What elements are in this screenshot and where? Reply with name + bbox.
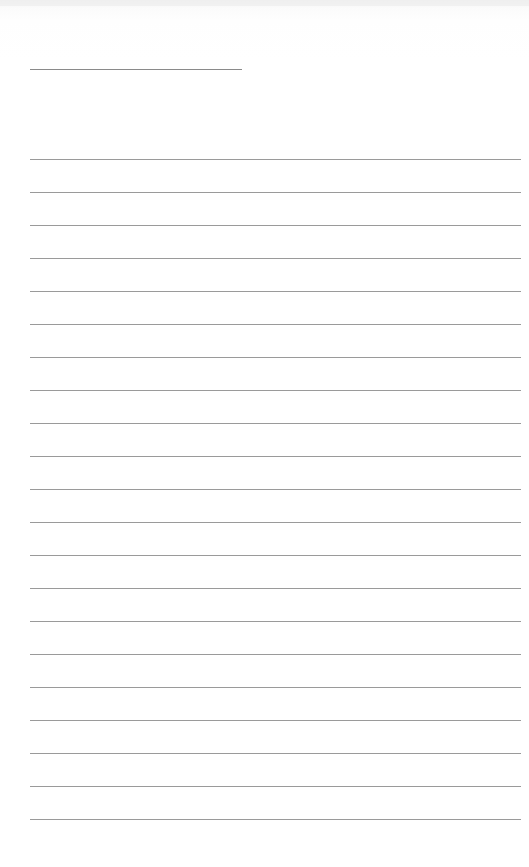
ruled-line [30,654,521,655]
ruled-line [30,159,521,160]
ruled-line [30,720,521,721]
ruled-line [30,324,521,325]
ruled-line [30,192,521,193]
ruled-line [30,291,521,292]
ruled-line [30,786,521,787]
lined-paper-page [0,0,529,867]
ruled-line [30,390,521,391]
ruled-line [30,687,521,688]
ruled-line [30,225,521,226]
ruled-line [30,819,521,820]
top-edge-shadow [0,0,529,6]
ruled-line [30,489,521,490]
ruled-line [30,753,521,754]
ruled-line [30,555,521,556]
ruled-line [30,357,521,358]
ruled-line [30,621,521,622]
ruled-line [30,258,521,259]
ruled-line [30,456,521,457]
title-line [30,69,242,70]
ruled-line [30,522,521,523]
ruled-line [30,423,521,424]
ruled-line [30,588,521,589]
